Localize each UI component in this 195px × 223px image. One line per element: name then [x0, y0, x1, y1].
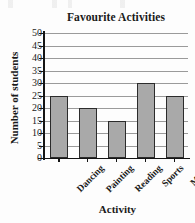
y-tick-label: 10: [32, 128, 42, 138]
bar-sports: [137, 83, 155, 158]
gridline: [44, 71, 188, 72]
y-tick-label: 35: [32, 66, 42, 76]
x-label-reading: Reading: [133, 163, 164, 194]
gridline: [44, 33, 188, 34]
x-label-sports: Sports: [160, 163, 186, 189]
x-label-dancing: Dancing: [75, 163, 106, 194]
y-tick-label: 40: [32, 53, 42, 63]
bar-chart-figure: Favourite Activities 0510152025303540455…: [0, 0, 195, 223]
gridline: [44, 83, 188, 84]
x-tick-mark: [87, 158, 88, 162]
bar-dancing: [50, 96, 68, 159]
y-tick-label: 5: [37, 141, 42, 151]
bar-reading: [108, 121, 126, 159]
y-tick-label: 25: [32, 91, 42, 101]
chart-title: Favourite Activities: [40, 11, 192, 23]
x-axis-title: Activity: [45, 203, 190, 215]
bar-music: [166, 96, 184, 159]
x-tick-mark: [116, 158, 117, 162]
gridline: [44, 58, 188, 59]
x-tick-mark: [58, 158, 59, 162]
y-tick-label: 15: [32, 116, 42, 126]
x-tick-mark: [174, 158, 175, 162]
y-tick-label: 20: [32, 103, 42, 113]
y-axis-title: Number of students: [8, 28, 20, 168]
x-tick-mark: [145, 158, 146, 162]
y-tick-label: 30: [32, 78, 42, 88]
x-label-painting: Painting: [104, 163, 135, 194]
x-label-music: Music: [188, 163, 195, 188]
y-tick-label: 45: [32, 41, 42, 51]
scan-artifact-overlay: [0, 0, 195, 8]
plot-area: 05101520253035404550: [44, 33, 188, 158]
gridline: [44, 46, 188, 47]
y-tick-label: 50: [32, 28, 42, 38]
x-axis-line: [38, 158, 190, 160]
bar-painting: [79, 108, 97, 158]
y-axis-line: [43, 31, 45, 160]
